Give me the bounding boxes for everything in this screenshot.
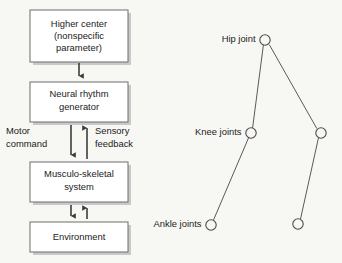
box-environment: Environment <box>30 222 131 255</box>
sensory-feedback-line-1: Sensory <box>95 125 130 136</box>
box-musculo-line-2: system <box>64 181 94 192</box>
box-generator-line-1: Neural rhythm <box>50 88 109 99</box>
box-higher-center-line-1: Higher center <box>51 18 107 29</box>
joint-diagram: Hip joint Knee joints Ankle joints <box>154 33 327 230</box>
box-musculo-skeletal-system: Musculo-skeletal system <box>30 162 131 205</box>
joint-label-knee: Knee joints <box>195 126 242 137</box>
sensory-feedback-line-2: feedback <box>95 138 133 149</box>
box-environment-line-1: Environment <box>53 231 106 242</box>
joint-knee-left <box>246 128 256 138</box>
joint-ankle-right <box>293 219 303 229</box>
segment-hip-to-knee-left <box>253 45 264 128</box>
box-neural-rhythm-generator: Neural rhythm generator <box>30 82 131 125</box>
block-diagram: Higher center (nonspecific parameter) Ne… <box>6 10 133 255</box>
motor-command-line-2: command <box>6 138 47 149</box>
joint-knee-right <box>316 128 326 138</box>
box-higher-center: Higher center (nonspecific parameter) <box>30 10 131 65</box>
box-higher-center-line-2: (nonspecific <box>54 30 104 41</box>
joint-ankle-left <box>206 220 216 230</box>
segment-knee-to-ankle-left <box>213 138 248 221</box>
joint-label-ankle: Ankle joints <box>154 218 202 229</box>
joint-hip <box>260 35 270 45</box>
figure-canvas: Higher center (nonspecific parameter) Ne… <box>0 0 342 263</box>
figure-container: Higher center (nonspecific parameter) Ne… <box>0 0 342 263</box>
joint-label-hip: Hip joint <box>222 33 256 44</box>
box-musculo-line-1: Musculo-skeletal <box>44 168 114 179</box>
label-sensory-feedback: Sensory feedback <box>95 125 133 149</box>
segment-hip-to-knee-right <box>269 45 317 129</box>
box-higher-center-line-3: parameter) <box>56 42 102 53</box>
motor-command-line-1: Motor <box>6 125 30 136</box>
segment-knee-to-ankle-right <box>301 138 319 219</box>
label-motor-command: Motor command <box>6 125 47 149</box>
box-generator-line-2: generator <box>59 101 99 112</box>
